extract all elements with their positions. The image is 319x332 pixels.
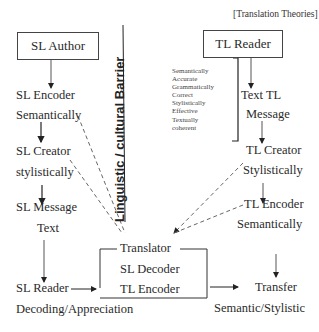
sl-message-line2: Text <box>37 221 59 236</box>
tl-reader-label: TL Reader <box>215 36 270 51</box>
header-label: [Translation Theories] <box>233 9 318 19</box>
tl-encoder-line2: Semantically <box>237 217 302 232</box>
sl-message-line1: SL Message <box>16 200 77 215</box>
quality-item: Accurate <box>172 75 214 83</box>
tl-message-line2: Message <box>246 107 290 122</box>
barrier-label: Linguistic / cultural Barrier <box>112 57 127 222</box>
quality-item: Correct <box>172 91 214 99</box>
sl-reader-line1: SL Reader <box>16 281 69 296</box>
quality-item: Textually <box>172 116 214 124</box>
tl-encoder-line1: TL Encoder <box>244 197 304 212</box>
tl-message-line1: Text TL <box>241 88 281 103</box>
tl-creator-line1: TL Creator <box>246 143 301 158</box>
transfer-line2: Semantic/Stylistic <box>214 301 305 316</box>
sl-reader-line2: Decoding/Appreciation <box>16 302 133 317</box>
quality-item: Grammatically <box>172 83 214 91</box>
quality-item: Semantically <box>172 67 214 75</box>
quality-item: coherent <box>172 124 214 132</box>
sl-encoder-line2: Semantically <box>16 108 81 123</box>
sl-creator-line2: stylistically <box>16 165 74 180</box>
translator-encoder: TL Encoder <box>120 282 180 297</box>
tl-creator-line2: Stylistically <box>243 163 303 178</box>
tl-reader-box: TL Reader <box>203 30 283 58</box>
sl-author-box: SL Author <box>17 32 99 60</box>
translator-title: Translator <box>120 241 171 256</box>
translator-decoder: SL Decoder <box>120 262 180 277</box>
transfer-line1: Transfer <box>255 280 297 295</box>
quality-list: Semantically Accurate Grammatically Corr… <box>172 67 214 132</box>
sl-creator-line1: SL Creator <box>16 144 71 159</box>
quality-item: Effective <box>172 107 214 115</box>
quality-item: Stylistically <box>172 99 214 107</box>
sl-author-label: SL Author <box>31 38 85 53</box>
sl-encoder-line1: SL Encoder <box>16 88 75 103</box>
